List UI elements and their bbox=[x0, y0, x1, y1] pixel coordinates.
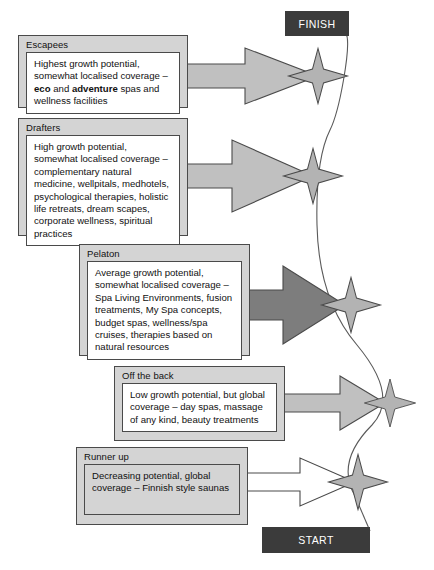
finish-chip: FINISH bbox=[285, 11, 349, 36]
diagram-canvas: FINISH START Escapees Highest growth pot… bbox=[0, 0, 434, 570]
finish-label: FINISH bbox=[299, 18, 336, 30]
group-body-escapees: Highest growth potential, somewhat local… bbox=[26, 52, 180, 114]
race-track-curve bbox=[317, 27, 383, 531]
group-title-off-the-back: Off the back bbox=[115, 367, 284, 383]
group-card-escapees[interactable]: Escapees Highest growth potential, somew… bbox=[18, 35, 188, 108]
star-off-the-back bbox=[364, 379, 415, 427]
group-card-runner-up[interactable]: Runner up Decreasing potential, global c… bbox=[76, 447, 248, 525]
start-label: START bbox=[298, 534, 333, 546]
group-card-off-the-back[interactable]: Off the back Low growth potential, but g… bbox=[114, 366, 285, 441]
group-title-drafters: Drafters bbox=[19, 119, 187, 135]
star-runner-up bbox=[329, 454, 388, 509]
group-card-drafters[interactable]: Drafters High growth potential, somewhat… bbox=[18, 118, 188, 236]
group-card-pelaton[interactable]: Pelaton Average growth potential, somewh… bbox=[79, 244, 250, 356]
group-title-escapees: Escapees bbox=[19, 36, 187, 52]
star-pelaton bbox=[322, 277, 381, 332]
group-title-runner-up: Runner up bbox=[77, 448, 247, 464]
start-chip: START bbox=[262, 527, 370, 553]
star-drafters bbox=[284, 148, 343, 203]
group-title-pelaton: Pelaton bbox=[80, 245, 249, 261]
star-escapees bbox=[289, 48, 348, 103]
group-body-runner-up: Decreasing potential, global coverage – … bbox=[84, 464, 240, 515]
group-body-off-the-back: Low growth potential, but global coverag… bbox=[122, 383, 277, 432]
group-body-pelaton: Average growth potential, somewhat local… bbox=[87, 261, 242, 360]
group-body-drafters: High growth potential, somewhat localise… bbox=[26, 135, 180, 246]
